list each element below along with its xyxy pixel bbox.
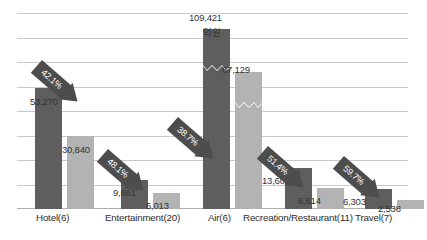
value-label-hotel-previous: 53,270 (30, 96, 58, 107)
value-label-air-previous: 109,421 (189, 12, 222, 23)
value-label-air-current: 67,129 (222, 64, 250, 75)
bar-group-hotel (35, 13, 97, 209)
value-label-recreation-current: 6,614 (298, 195, 321, 206)
bar-travel-current[interactable] (397, 200, 424, 209)
category-label-recreation-restaurant: Recreation/Restaurant(11) (243, 212, 353, 223)
value-label-entertainment-current: 5,013 (146, 200, 169, 211)
bar-chart: 53,270 30,840 9,661 5,013 109,421 억원 67,… (0, 0, 427, 240)
bar-recreation-current[interactable] (317, 188, 344, 209)
category-label-air: Air(6) (208, 212, 231, 223)
value-unit-air: 억원 (203, 25, 221, 39)
category-label-entertainment: Entertainment(20) (105, 212, 180, 223)
bar-group-air (203, 13, 265, 209)
category-label-travel: Travel(7) (355, 212, 392, 223)
axis-break-mark (235, 102, 262, 109)
bar-air-previous[interactable] (203, 29, 230, 209)
zigzag-icon (235, 102, 262, 109)
category-label-hotel: Hotel(6) (36, 212, 69, 223)
category-axis-labels: Hotel(6) Entertainment(20) Air(6) Recrea… (0, 212, 427, 234)
bar-air-current[interactable] (235, 72, 262, 209)
value-label-hotel-current: 30,840 (62, 144, 90, 155)
